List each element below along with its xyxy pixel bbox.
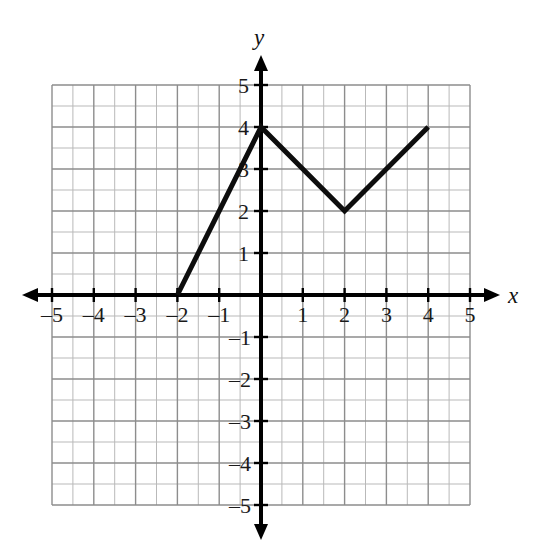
y-axis-label: y xyxy=(252,25,265,50)
y-tick-label: –1 xyxy=(228,325,251,350)
graph-canvas: –5–4–3–2–11234554321–1–2–3–4–5 x y xyxy=(0,0,545,550)
y-tick-label: 5 xyxy=(238,73,249,98)
y-axis-arrow-up-icon xyxy=(254,55,268,71)
y-axis-arrow-down-icon xyxy=(254,524,268,540)
x-tick-label: –5 xyxy=(40,302,63,327)
x-axis-arrow-left-icon xyxy=(22,288,38,302)
y-tick-label: –2 xyxy=(228,367,251,392)
y-tick-label: –4 xyxy=(228,451,251,476)
x-tick-label: 2 xyxy=(339,302,350,327)
x-tick-label: –3 xyxy=(124,302,147,327)
x-tick-label: –2 xyxy=(165,302,188,327)
y-tick-label: 1 xyxy=(238,241,249,266)
x-tick-label: –4 xyxy=(82,302,105,327)
x-axis-arrow-right-icon xyxy=(484,288,500,302)
x-tick-label: –1 xyxy=(207,302,230,327)
y-tick-label: 4 xyxy=(238,115,249,140)
coordinate-plane-figure: –5–4–3–2–11234554321–1–2–3–4–5 x y xyxy=(0,0,545,550)
y-tick-label: –3 xyxy=(228,409,251,434)
x-tick-label: 3 xyxy=(381,302,392,327)
y-tick-label: –5 xyxy=(228,493,251,518)
x-axis-label: x xyxy=(507,283,519,308)
x-tick-label: 1 xyxy=(297,302,308,327)
x-tick-label: 4 xyxy=(423,302,434,327)
y-tick-label: 2 xyxy=(238,199,249,224)
x-tick-label: 5 xyxy=(465,302,476,327)
